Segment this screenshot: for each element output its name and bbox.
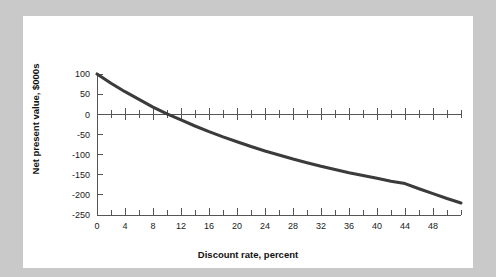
x-axis-title: Discount rate, percent bbox=[198, 249, 299, 260]
x-tick-label: 4 bbox=[122, 221, 127, 231]
x-tick-label: 20 bbox=[232, 221, 242, 231]
y-tick-label: -200 bbox=[72, 190, 90, 200]
npv-discount-rate-chart: 100500-50-100-150-200-250 04812162024283… bbox=[23, 16, 473, 268]
y-tick-label: -150 bbox=[72, 170, 90, 180]
figure-root: 100500-50-100-150-200-250 04812162024283… bbox=[0, 0, 496, 277]
y-tick-label: 100 bbox=[75, 69, 90, 79]
x-tick-label: 32 bbox=[316, 221, 326, 231]
x-tick-label: 44 bbox=[400, 221, 410, 231]
x-tick-label: 24 bbox=[260, 221, 270, 231]
x-tick-label: 40 bbox=[372, 221, 382, 231]
y-tick-label: -50 bbox=[77, 130, 90, 140]
x-tick-label: 0 bbox=[94, 221, 99, 231]
x-tick-label: 36 bbox=[344, 221, 354, 231]
chart-panel: 100500-50-100-150-200-250 04812162024283… bbox=[23, 16, 473, 268]
y-tick-label: -100 bbox=[72, 150, 90, 160]
x-tick-label: 8 bbox=[150, 221, 155, 231]
y-tick-label: -250 bbox=[72, 210, 90, 220]
y-tick-label: 50 bbox=[80, 89, 90, 99]
x-tick-label: 48 bbox=[428, 221, 438, 231]
y-tick-label: 0 bbox=[85, 110, 90, 120]
x-tick-label: 16 bbox=[204, 221, 214, 231]
npv-curve-path bbox=[97, 74, 461, 203]
zero-line bbox=[97, 108, 461, 120]
y-axis: 100500-50-100-150-200-250 bbox=[72, 69, 103, 220]
x-tick-label: 28 bbox=[288, 221, 298, 231]
x-axis: 04812162024283236404448 bbox=[94, 208, 461, 231]
x-tick-label: 12 bbox=[176, 221, 186, 231]
npv-curve bbox=[97, 74, 461, 203]
y-axis-title: Net present value, $000s bbox=[30, 64, 41, 175]
